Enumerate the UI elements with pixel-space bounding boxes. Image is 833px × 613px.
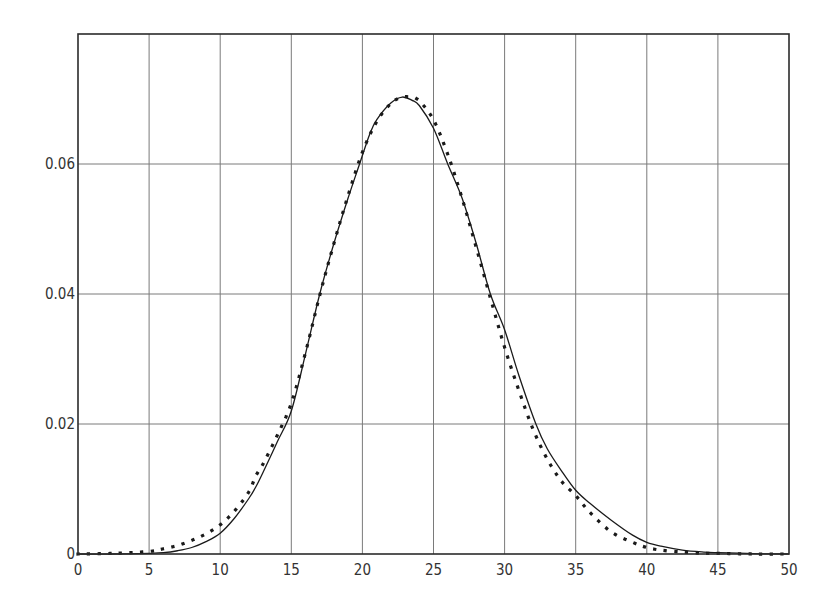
chart: 05101520253035404550 00.020.040.06: [0, 0, 833, 613]
x-tick-label: 0: [74, 561, 83, 579]
x-tick-label: 40: [638, 561, 655, 579]
x-tick-label: 5: [145, 561, 154, 579]
x-axis-tick-labels: 05101520253035404550: [74, 561, 798, 579]
y-tick-label: 0.02: [45, 415, 75, 433]
x-tick-label: 20: [354, 561, 371, 579]
grid-lines: [78, 34, 789, 554]
x-tick-label: 35: [567, 561, 584, 579]
x-tick-label: 30: [496, 561, 513, 579]
x-tick-label: 25: [425, 561, 442, 579]
y-tick-label: 0: [66, 545, 75, 563]
x-tick-label: 10: [212, 561, 229, 579]
x-tick-label: 15: [283, 561, 300, 579]
y-axis-tick-labels: 00.020.040.06: [45, 155, 75, 563]
x-tick-label: 45: [709, 561, 726, 579]
y-tick-label: 0.04: [45, 285, 75, 303]
x-tick-label: 50: [780, 561, 797, 579]
y-tick-label: 0.06: [45, 155, 75, 173]
